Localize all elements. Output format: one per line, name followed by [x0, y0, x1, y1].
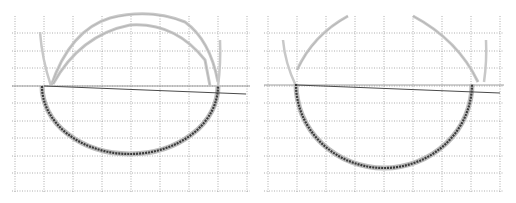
upper-arcs: [51, 14, 218, 86]
outer-arc-left: [283, 40, 296, 86]
lower-arc-halo: [42, 86, 218, 154]
upper-arcs: [297, 16, 478, 82]
panel-left: [0, 0, 258, 203]
outer-arc-left: [40, 32, 51, 86]
lower-arc: [42, 86, 218, 154]
plot-right: [258, 0, 516, 203]
plot-left: [0, 0, 258, 203]
outer-arc-right: [484, 40, 486, 82]
panel-right: [258, 0, 516, 203]
